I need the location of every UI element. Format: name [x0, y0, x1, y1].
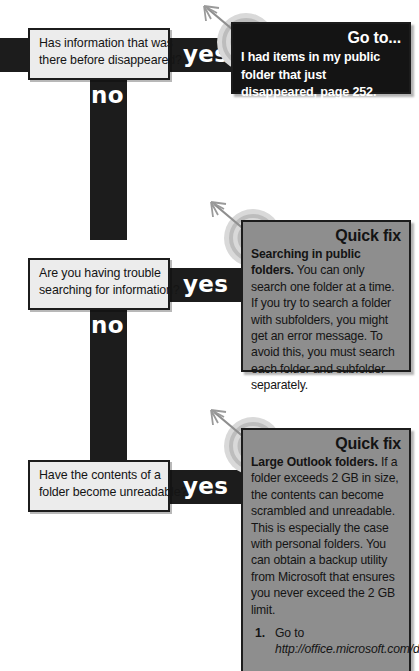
no-label-2: no	[91, 314, 124, 337]
go-to-heading: Go to...	[233, 24, 409, 48]
result-panel-quick-fix-search[interactable]: Quick fix Searching in public folders. Y…	[241, 220, 411, 372]
question-box-1[interactable]: Has information that was there before di…	[28, 28, 170, 80]
question-1-line-1: Has information that was	[39, 35, 160, 52]
quick-fix-body-2: Large Outlook folders. If a folder excee…	[243, 454, 409, 664]
quick-fix-heading-1: Quick fix	[243, 222, 409, 246]
step-text: Go to	[275, 626, 304, 640]
question-3-line-1: Have the contents of a	[39, 467, 160, 484]
quick-fix-text-1: You can only search one folder at a time…	[251, 263, 395, 392]
question-box-3[interactable]: Have the contents of a folder become unr…	[28, 460, 170, 512]
question-3-line-2: folder become unreadable?	[39, 484, 160, 501]
quick-fix-heading-2: Quick fix	[243, 430, 409, 454]
question-1-line-2: there before disappeared?	[39, 52, 160, 69]
question-box-2[interactable]: Are you having trouble searching for inf…	[28, 258, 170, 310]
result-panel-quick-fix-large-folders[interactable]: Quick fix Large Outlook folders. If a fo…	[241, 428, 411, 671]
step-number: 1.	[255, 625, 265, 641]
quick-fix-body-1: Searching in public folders. You can onl…	[243, 246, 409, 400]
step-url[interactable]: http://office.microsoft.com/downloads/20…	[275, 642, 419, 656]
result-panel-go-to[interactable]: Go to... I had items in my public folder…	[231, 22, 411, 94]
quick-fix-text-2: If a folder exceeds 2 GB in size, the co…	[251, 455, 399, 617]
no-label-1: no	[91, 84, 124, 107]
yes-label-1: yes	[183, 43, 228, 66]
question-2-line-2: searching for information?	[39, 282, 160, 299]
question-2-line-1: Are you having trouble	[39, 265, 160, 282]
yes-label-3: yes	[183, 475, 228, 498]
list-item: 1.Go to http://office.microsoft.com/down…	[251, 625, 402, 658]
yes-label-2: yes	[183, 273, 228, 296]
quick-fix-lead-2: Large Outlook folders.	[251, 455, 378, 469]
go-to-body: I had items in my public folder that jus…	[233, 48, 409, 109]
quick-fix-step-list: 1.Go to http://office.microsoft.com/down…	[251, 625, 402, 658]
